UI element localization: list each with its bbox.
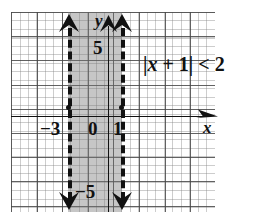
tick-dot-x-minus-3 [66,105,71,110]
y-axis-line [108,26,109,212]
x-tick-label-1: 1 [113,119,123,138]
x-tick-label-0: 0 [88,119,98,138]
tick-dot-x-1 [119,105,124,110]
inequality-relation: < [198,53,209,75]
inequality-variable: x [147,53,157,75]
inequality-right-bar: | [189,53,193,75]
x-tick-label-minus-3: −3 [40,119,60,138]
inequality-bound: 2 [215,53,225,75]
y-tick-label-5: 5 [93,38,103,57]
boundary-line-x-1 [121,28,125,200]
boundary-left-up-arrowhead-icon [58,14,80,32]
inequality-plus-sign: + [162,53,173,75]
x-axis-label: x [203,119,212,136]
y-axis-label: y [95,12,103,29]
boundary-right-down-arrowhead-icon [111,192,133,210]
graph-figure: y x 5 −5 −3 0 1 |x + 1| < 2 [0,0,258,223]
inequality-annotation: |x + 1| < 2 [143,54,225,74]
graph-paper-grid [11,12,215,212]
boundary-right-up-arrowhead-icon [111,14,133,32]
boundary-line-x-minus-3 [68,28,72,200]
inequality-constant: 1 [179,53,189,75]
y-tick-label-minus-5: −5 [75,182,95,201]
x-axis-line [11,116,203,117]
